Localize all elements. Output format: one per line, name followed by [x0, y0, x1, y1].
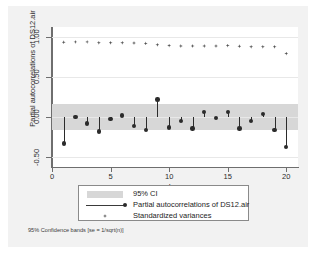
y-tick: [46, 157, 51, 158]
pac-point: [73, 115, 77, 119]
x-tick-label: 0: [42, 172, 62, 181]
gridline: [52, 37, 298, 38]
chart-footnote: 95% Confidence bands [se = 1/sqrt(n)]: [28, 227, 124, 233]
diamond-marker-icon: [103, 214, 107, 218]
legend-label-ci: 95% CI: [133, 189, 158, 198]
chart-screenshot: -0.500.000.501.00 05101520 Lag Partial a…: [0, 0, 316, 253]
plot-area: [52, 27, 298, 167]
x-tick-label: 5: [101, 172, 121, 181]
chart-legend: 95% CI Partial autocorrelations of DS12.…: [78, 185, 249, 221]
legend-label-pac: Partial autocorrelations of DS12.air: [133, 200, 249, 209]
circle-marker-icon: [123, 203, 127, 207]
y-tick-label: -0.50: [32, 144, 41, 170]
legend-item-variances: Standardized variances: [79, 210, 248, 222]
line-icon: [86, 205, 126, 206]
pac-point: [155, 97, 159, 101]
pac-point: [237, 126, 241, 130]
pac-stem: [157, 99, 158, 117]
pac-point: [144, 128, 148, 132]
gridline: [52, 77, 298, 78]
pac-stem: [286, 117, 287, 147]
y-axis-line: [51, 27, 52, 167]
x-tick-label: 10: [159, 172, 179, 181]
pac-point: [62, 141, 66, 145]
x-tick-label: 20: [276, 172, 296, 181]
gridline: [52, 117, 298, 118]
pac-point: [272, 128, 276, 132]
x-axis-line: [51, 167, 299, 168]
pac-point: [85, 121, 89, 125]
ci-band-swatch-icon: [87, 191, 123, 198]
y-tick: [46, 77, 51, 78]
legend-key-diamond: [85, 210, 131, 222]
pac-point: [261, 112, 265, 116]
pac-point: [190, 126, 194, 130]
pac-stem: [64, 117, 65, 144]
legend-label-variances: Standardized variances: [133, 211, 211, 220]
gridline: [52, 157, 298, 158]
y-tick: [46, 37, 51, 38]
pac-point: [97, 129, 101, 133]
pac-point: [108, 117, 112, 121]
x-tick-label: 15: [218, 172, 238, 181]
pac-point: [167, 125, 171, 129]
graph-region: -0.500.000.501.00 05101520 Lag Partial a…: [8, 6, 308, 247]
y-axis-title: Partial autocorrelations of DS12.air: [28, 0, 37, 139]
y-tick: [46, 117, 51, 118]
